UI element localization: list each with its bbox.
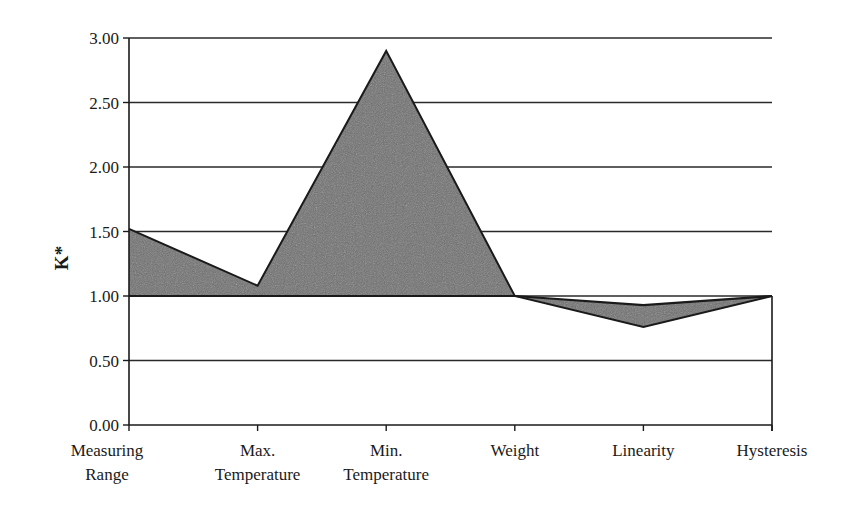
y-tick-label: 3.00 bbox=[89, 29, 119, 48]
x-category-label: Max.Temperature bbox=[215, 441, 301, 484]
x-category-label: MeasuringRange bbox=[71, 441, 144, 484]
x-category-label: Hysteresis bbox=[737, 441, 808, 460]
x-category-label: Linearity bbox=[612, 441, 675, 460]
y-axis-tick-labels: 0.000.501.001.502.002.503.00 bbox=[89, 29, 119, 435]
y-tick-label: 2.50 bbox=[89, 94, 119, 113]
y-tick-label: 0.00 bbox=[89, 416, 119, 435]
area-chart: 0.000.501.001.502.002.503.00 MeasuringRa… bbox=[0, 0, 856, 515]
series-line-reference bbox=[129, 296, 772, 305]
x-axis-tick-labels: MeasuringRangeMax.TemperatureMin.Tempera… bbox=[71, 441, 808, 484]
y-axis-title: K* bbox=[51, 246, 72, 270]
y-tick-label: 0.50 bbox=[89, 352, 119, 371]
y-tick-label: 1.50 bbox=[89, 223, 119, 242]
y-tick-label: 1.00 bbox=[89, 287, 119, 306]
area-fill-region bbox=[129, 51, 772, 327]
x-category-label: Weight bbox=[490, 441, 539, 460]
y-tick-label: 2.00 bbox=[89, 158, 119, 177]
x-category-label: Min.Temperature bbox=[343, 441, 429, 484]
area-fill bbox=[129, 51, 772, 327]
